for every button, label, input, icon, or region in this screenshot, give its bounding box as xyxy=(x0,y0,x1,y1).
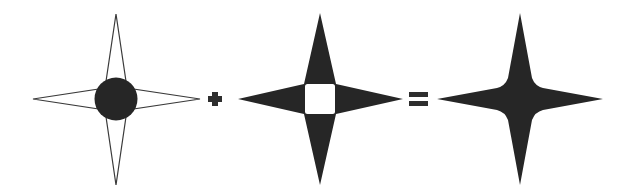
diagram-svg xyxy=(0,0,633,193)
equals-operator-icon xyxy=(409,92,428,106)
filled-circle-icon xyxy=(95,78,138,121)
diagram-canvas: Visual equation: outlined four-point sta… xyxy=(0,0,633,193)
solid-star xyxy=(437,13,603,185)
outlined-star-with-circle xyxy=(33,14,200,185)
filled-star-with-square-hole xyxy=(238,13,403,185)
square-hole-icon xyxy=(305,84,335,114)
plus-operator-icon xyxy=(208,92,222,106)
solid-star-icon xyxy=(437,13,603,185)
